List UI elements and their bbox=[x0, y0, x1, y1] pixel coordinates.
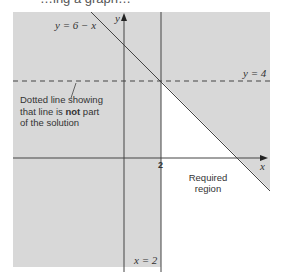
x-axis-label: x bbox=[260, 161, 265, 172]
x-tick-label-2: 2 bbox=[158, 160, 163, 171]
shaded-region bbox=[13, 12, 270, 267]
inequality-graph bbox=[0, 0, 281, 278]
vertical-line-label: x = 2 bbox=[134, 255, 157, 266]
annotation-line-2: that line is not part bbox=[20, 106, 103, 118]
dotted-line-annotation: Dotted line showing that line is not par… bbox=[20, 94, 103, 129]
y-axis-label: y bbox=[115, 13, 120, 24]
annotation-line-1: Dotted line showing bbox=[20, 94, 103, 106]
required-region-label: Required region bbox=[183, 172, 233, 194]
diagonal-line-label: y = 6 − x bbox=[55, 20, 96, 31]
partial-title: …ing a graph… bbox=[40, 0, 131, 6]
horizontal-line-label: y = 4 bbox=[243, 68, 266, 79]
annotation-line-3: of the solution bbox=[20, 117, 103, 129]
